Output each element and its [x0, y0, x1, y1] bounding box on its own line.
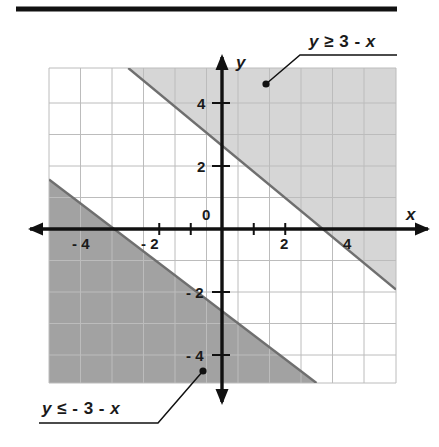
inequality-graph-figure: y x 0 - 4 - 2 2 4 4 2 - 2 - 4 y ≥ 3 - x …	[0, 0, 439, 447]
x-axis-label: x	[406, 206, 415, 223]
y-axis-down-arrow	[216, 389, 229, 405]
callout-lower-relation: ≤ - 3 -	[52, 399, 110, 418]
callout-lower-var-y: y	[42, 399, 52, 418]
x-axis-right-arrow	[415, 223, 430, 236]
graph-canvas	[0, 0, 439, 447]
callout-label-upper: y ≥ 3 - x	[309, 33, 376, 50]
x-axis-left-arrow	[28, 223, 43, 236]
x-tick-label-neg4: - 4	[72, 236, 90, 251]
origin-label: 0	[202, 207, 210, 222]
x-tick-label-2: 2	[280, 236, 288, 251]
y-tick-label-2: 2	[197, 159, 205, 174]
y-axis-up-arrow	[216, 54, 229, 70]
x-tick-label-4: 4	[343, 236, 351, 251]
callout-upper-var-x: x	[366, 32, 376, 51]
y-tick-label-4: 4	[197, 96, 205, 111]
callout-upper-var-y: y	[309, 32, 319, 51]
y-tick-label-neg2: - 2	[186, 285, 204, 300]
x-tick-label-neg2: - 2	[141, 236, 159, 251]
callout-dot-upper	[262, 80, 269, 87]
y-axis-label: y	[236, 54, 245, 71]
callout-dot-lower	[199, 367, 206, 374]
callout-lower-var-x: x	[110, 399, 120, 418]
callout-upper-relation: ≥ 3 -	[319, 32, 366, 51]
y-tick-label-neg4: - 4	[186, 348, 204, 363]
callout-label-lower: y ≤ - 3 - x	[42, 400, 120, 417]
